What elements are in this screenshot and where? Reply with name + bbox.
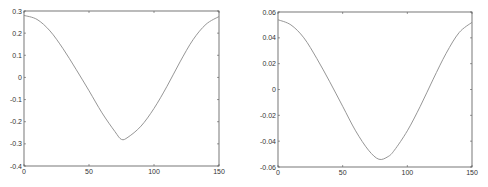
y-tick-label: -0.06 bbox=[260, 164, 276, 171]
x-tick-label: 150 bbox=[466, 169, 478, 176]
y-tick-label: -0.3 bbox=[10, 140, 22, 147]
left-plot: 050100150-0.4-0.3-0.2-0.100.10.20.3 bbox=[10, 8, 225, 176]
x-tick-label: 150 bbox=[213, 168, 225, 175]
x-tick-label: 50 bbox=[339, 169, 347, 176]
x-tick-label: 100 bbox=[148, 168, 160, 175]
y-tick-label: -0.4 bbox=[10, 163, 22, 170]
data-line bbox=[278, 20, 472, 160]
axes-frame bbox=[278, 12, 472, 167]
y-tick-label: 0 bbox=[18, 74, 22, 81]
y-tick-label: 0.2 bbox=[12, 30, 22, 37]
y-tick-label: 0.06 bbox=[262, 9, 276, 16]
x-tick-label: 50 bbox=[85, 168, 93, 175]
y-tick-label: -0.2 bbox=[10, 118, 22, 125]
y-tick-label: 0.1 bbox=[12, 52, 22, 59]
x-tick-label: 0 bbox=[276, 169, 280, 176]
y-tick-label: -0.04 bbox=[260, 138, 276, 145]
y-tick-label: -0.1 bbox=[10, 96, 22, 103]
data-line bbox=[24, 15, 219, 139]
x-tick-label: 0 bbox=[22, 168, 26, 175]
right-plot: 050100150-0.06-0.04-0.0200.020.040.06 bbox=[260, 9, 478, 177]
y-tick-label: 0.04 bbox=[262, 34, 276, 41]
x-tick-label: 100 bbox=[401, 169, 413, 176]
y-tick-label: 0 bbox=[272, 86, 276, 93]
y-tick-label: 0.3 bbox=[12, 8, 22, 15]
y-tick-label: 0.02 bbox=[262, 60, 276, 67]
y-tick-label: -0.02 bbox=[260, 112, 276, 119]
